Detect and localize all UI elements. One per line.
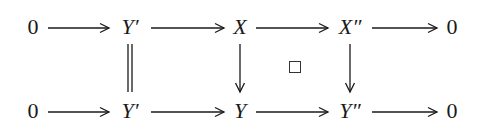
node-top-x-double-prime: X″	[339, 16, 362, 38]
node-top-0-end: 0	[447, 16, 458, 38]
commutative-diagram: 0 Y′ X X″ 0 0 Y′ Y Y″ 0	[0, 0, 480, 135]
node-top-0: 0	[28, 16, 39, 38]
node-top-y-prime: Y′	[121, 16, 138, 38]
node-bottom-y: Y	[234, 100, 246, 122]
node-top-x: X	[233, 16, 246, 38]
node-bottom-y-double-prime: Y″	[339, 100, 360, 122]
node-bottom-0-end: 0	[447, 100, 458, 122]
node-bottom-0: 0	[28, 100, 39, 122]
pullback-square-marker	[289, 61, 301, 73]
node-bottom-y-prime: Y′	[121, 100, 138, 122]
